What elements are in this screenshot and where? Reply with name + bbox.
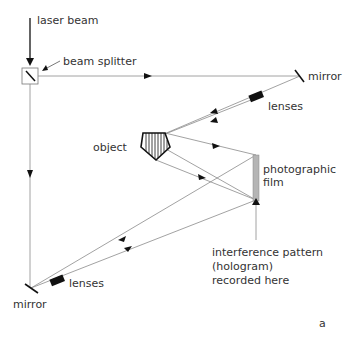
arrow-head <box>118 236 126 242</box>
interference-pointer <box>252 198 260 240</box>
label-interference-2: (hologram) <box>212 260 273 273</box>
arrow-head <box>210 117 218 123</box>
label-laser-beam: laser beam <box>37 14 99 27</box>
arrow-head <box>27 170 33 178</box>
label-film-2: film <box>263 176 284 189</box>
beam-splitter-pointer <box>42 61 60 71</box>
panel-letter: a <box>319 317 326 330</box>
arrow-head <box>212 143 220 149</box>
label-beam-splitter: beam splitter <box>63 55 136 68</box>
label-interference-1: interference pattern <box>212 246 323 259</box>
arrow-head <box>144 73 152 79</box>
label-lenses-top: lenses <box>268 100 303 113</box>
label-object: object <box>93 141 127 154</box>
label-mirror-top: mirror <box>308 70 342 83</box>
label-mirror-bottom: mirror <box>13 298 47 311</box>
laser-beam-arrow <box>26 18 34 66</box>
hologram-diagram: laser beam beam splitter mirror lenses o… <box>0 0 350 339</box>
label-film-1: photographic <box>263 163 336 176</box>
lenses-top-icon <box>248 91 264 103</box>
label-interference-3: recorded here <box>212 274 289 287</box>
photographic-film <box>253 155 259 201</box>
object-icon <box>141 133 170 160</box>
label-lenses-bottom: lenses <box>69 277 104 290</box>
object-beam <box>156 133 256 200</box>
arrow-head <box>210 108 218 114</box>
beam-splitter-icon <box>22 68 38 84</box>
lenses-bottom-icon <box>49 275 65 287</box>
